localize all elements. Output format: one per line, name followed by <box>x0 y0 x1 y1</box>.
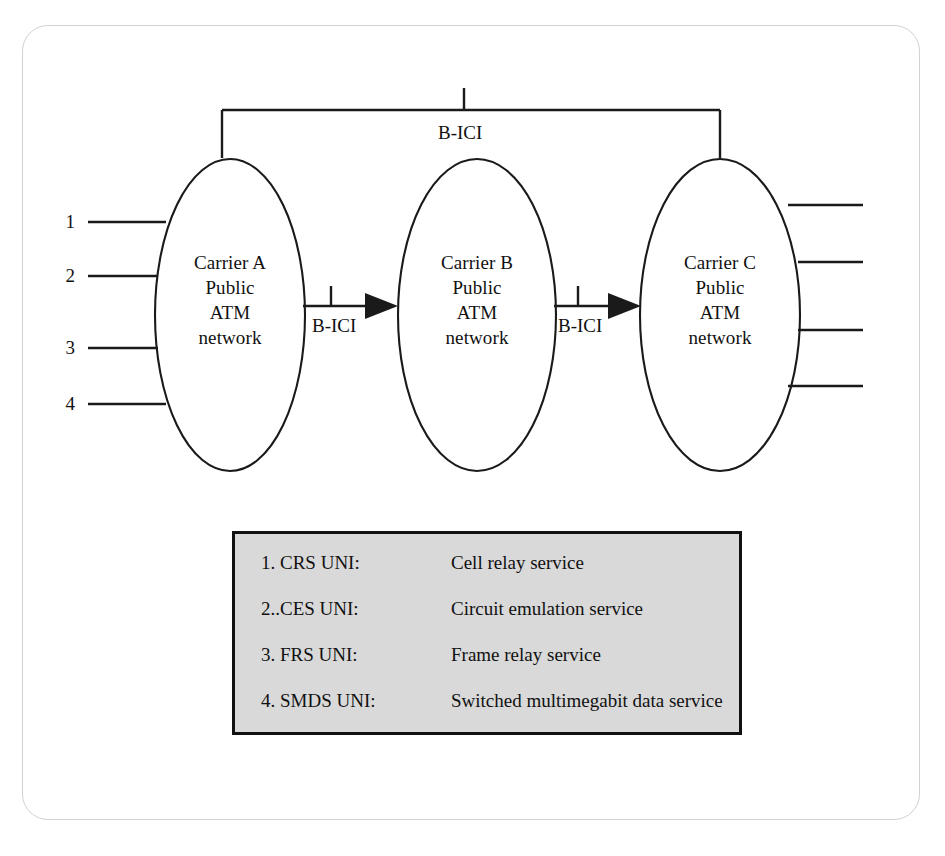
node-carrier-c-label: Carrier C Public ATM network <box>645 250 795 350</box>
node-carrier-c-line-4: network <box>645 325 795 350</box>
node-carrier-c-line-3: ATM <box>645 300 795 325</box>
legend-row: 1. CRS UNI: Cell relay service <box>261 552 739 598</box>
edge-b-to-c-label: B-ICI <box>558 315 602 337</box>
edge-a-to-b-label: B-ICI <box>312 315 356 337</box>
legend-row: 4. SMDS UNI: Switched multimegabit data … <box>261 690 739 736</box>
node-carrier-a-line-1: Carrier A <box>155 250 305 275</box>
node-carrier-a-line-2: Public <box>155 275 305 300</box>
node-carrier-a-line-3: ATM <box>155 300 305 325</box>
diagram-canvas: Carrier A Public ATM network Carrier B P… <box>0 0 945 856</box>
legend-box: 1. CRS UNI: Cell relay service 2..CES UN… <box>232 531 742 735</box>
node-carrier-b-line-3: ATM <box>402 300 552 325</box>
node-carrier-c-line-2: Public <box>645 275 795 300</box>
legend-value-4: Switched multimegabit data service <box>451 690 723 712</box>
left-port-number-2: 2 <box>57 265 75 287</box>
legend-rows: 1. CRS UNI: Cell relay service 2..CES UN… <box>235 534 739 732</box>
node-carrier-b-label: Carrier B Public ATM network <box>402 250 552 350</box>
legend-value-2: Circuit emulation service <box>451 598 643 620</box>
node-carrier-b-line-4: network <box>402 325 552 350</box>
legend-key-4: 4. SMDS UNI: <box>261 690 451 712</box>
legend-key-2: 2..CES UNI: <box>261 598 451 620</box>
node-carrier-a-label: Carrier A Public ATM network <box>155 250 305 350</box>
legend-key-1: 1. CRS UNI: <box>261 552 451 574</box>
node-carrier-b-line-1: Carrier B <box>402 250 552 275</box>
legend-row: 2..CES UNI: Circuit emulation service <box>261 598 739 644</box>
left-port-number-3: 3 <box>57 337 75 359</box>
left-port-number-1: 1 <box>57 211 75 233</box>
top-bracket-label: B-ICI <box>438 122 482 144</box>
legend-key-3: 3. FRS UNI: <box>261 644 451 666</box>
node-carrier-b-line-2: Public <box>402 275 552 300</box>
legend-value-1: Cell relay service <box>451 552 584 574</box>
node-carrier-a-line-4: network <box>155 325 305 350</box>
node-carrier-c-line-1: Carrier C <box>645 250 795 275</box>
legend-row: 3. FRS UNI: Frame relay service <box>261 644 739 690</box>
legend-value-3: Frame relay service <box>451 644 601 666</box>
left-port-number-4: 4 <box>57 393 75 415</box>
